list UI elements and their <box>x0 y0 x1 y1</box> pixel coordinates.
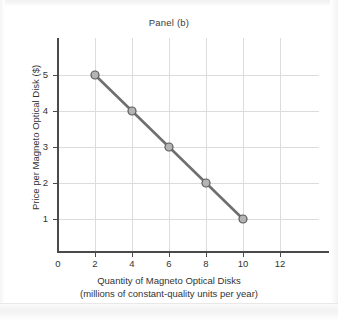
gridline-horizontal-3 <box>58 147 319 148</box>
plot-area <box>58 38 319 251</box>
x-tick-label-10: 10 <box>233 258 253 269</box>
x-tick-mark-4 <box>132 252 133 257</box>
x-tick-mark-2 <box>95 252 96 257</box>
x-tick-label-2: 2 <box>85 258 105 269</box>
x-tick-mark-6 <box>169 252 170 257</box>
y-tick-mark-4 <box>53 111 58 112</box>
gridline-horizontal-2 <box>58 183 319 184</box>
x-axis-line <box>57 251 329 253</box>
page-edge-bottom <box>0 303 338 321</box>
y-tick-mark-1 <box>53 219 58 220</box>
x-tick-label-8: 8 <box>196 258 216 269</box>
x-axis-title-line2: (millions of constant-quality units per … <box>0 287 338 300</box>
gridline-horizontal-4 <box>58 111 319 112</box>
x-tick-label-6: 6 <box>159 258 179 269</box>
y-axis-title: Price per Magneto Optical Disk ($) <box>30 38 41 238</box>
x-tick-mark-10 <box>243 252 244 257</box>
chart-title: Panel (b) <box>0 17 338 28</box>
y-tick-mark-2 <box>53 183 58 184</box>
x-tick-label-4: 4 <box>122 258 142 269</box>
gridline-horizontal-1 <box>58 219 319 220</box>
page-edge-top <box>0 0 338 6</box>
y-tick-mark-3 <box>53 147 58 148</box>
x-tick-mark-12 <box>280 252 281 257</box>
x-tick-label-0: 0 <box>48 258 68 269</box>
page-edge-left <box>0 0 5 303</box>
y-tick-mark-5 <box>53 75 58 76</box>
x-tick-mark-8 <box>206 252 207 257</box>
x-axis-title-line1: Quantity of Magneto Optical Disks <box>0 274 338 287</box>
x-axis-title: Quantity of Magneto Optical Disks (milli… <box>0 274 338 300</box>
page-edge-right <box>330 0 338 303</box>
x-tick-label-12: 12 <box>270 258 290 269</box>
gridline-horizontal-5 <box>58 75 319 76</box>
